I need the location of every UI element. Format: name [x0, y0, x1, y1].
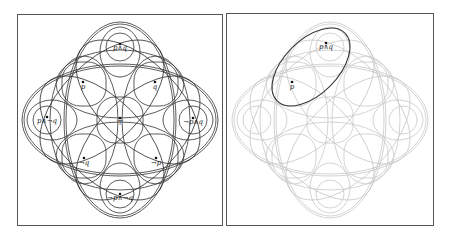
- left-lattice-diagram: p∧q p q p∧¬q ⊤ ¬p∧q ¬q ¬p ¬p∧¬q: [19, 19, 222, 222]
- label-not-q: ¬q: [79, 159, 90, 167]
- label-not-p-and-not-q: ¬p∧¬q: [107, 194, 133, 202]
- right-lattice-diagram: p∧q p: [229, 14, 432, 221]
- label-p: p: [81, 83, 86, 91]
- label-not-p-and-q: ¬p∧q: [183, 118, 203, 126]
- label-top: ⊤: [117, 119, 124, 127]
- label-q: q: [153, 83, 158, 91]
- label-p: p: [290, 83, 295, 91]
- label-p-and-q: p∧q: [113, 44, 128, 52]
- label-p-and-not-q: p∧¬q: [37, 117, 57, 125]
- diagram-canvas: p∧q p q p∧¬q ⊤ ¬p∧q ¬q ¬p ¬p∧¬q p∧q p: [0, 0, 449, 238]
- label-not-p: ¬p: [151, 159, 162, 167]
- label-p-and-q: p∧q: [319, 43, 334, 51]
